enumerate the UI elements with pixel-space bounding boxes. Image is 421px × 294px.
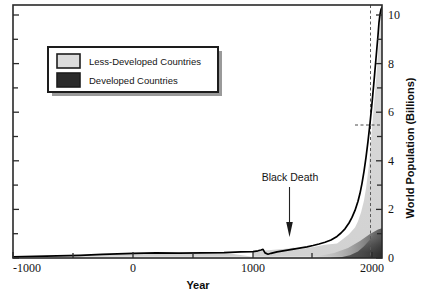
- legend-swatch-developed: [57, 73, 80, 87]
- x-axis-title: Year: [186, 279, 210, 291]
- x-ticklabel-3: 2000: [360, 261, 384, 275]
- y-ticklabel-0: 0: [388, 251, 394, 265]
- legend-label-developed: Developed Countries: [89, 75, 178, 86]
- legend: Less-Developed Countries Developed Count…: [48, 47, 222, 96]
- black-death-label: Black Death: [262, 171, 319, 183]
- x-ticklabel-1: 0: [130, 261, 136, 275]
- y-ticklabel-1: 2: [388, 202, 394, 216]
- y-ticklabel-2: 4: [388, 154, 394, 168]
- population-area-chart: -1000 0 1000 2000 0 2 4 6 8 10 Year Worl…: [0, 0, 421, 294]
- x-ticklabel-2: 1000: [241, 261, 265, 275]
- legend-label-less-developed: Less-Developed Countries: [89, 56, 201, 67]
- y-ticklabel-5: 10: [388, 8, 400, 22]
- y-axis-title: World Population (Billions): [404, 77, 416, 218]
- legend-swatch-less-developed: [57, 54, 80, 68]
- chart-figure: -1000 0 1000 2000 0 2 4 6 8 10 Year Worl…: [0, 0, 421, 294]
- x-ticklabel-0: -1000: [13, 261, 41, 275]
- y-axis-ticklabels: 0 2 4 6 8 10: [388, 8, 400, 265]
- y-ticklabel-4: 8: [388, 57, 394, 71]
- y-ticklabel-3: 6: [388, 105, 394, 119]
- x-axis-ticklabels: -1000 0 1000 2000: [13, 261, 384, 275]
- plot-background: [13, 5, 382, 258]
